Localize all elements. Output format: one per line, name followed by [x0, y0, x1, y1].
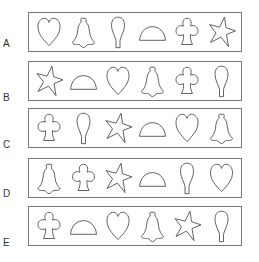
bell-icon: [211, 114, 233, 143]
heart-icon: [38, 18, 60, 45]
row-label: D: [3, 189, 10, 199]
semicircle-icon: [140, 173, 166, 187]
heart-icon: [211, 164, 233, 191]
star-icon: [106, 113, 132, 142]
club-icon: [176, 67, 198, 93]
bell-icon: [73, 18, 95, 47]
bell-icon: [38, 164, 60, 193]
club-icon: [73, 164, 95, 190]
option-box-a: [28, 12, 242, 52]
bell-icon: [142, 212, 164, 241]
semicircle-icon: [140, 27, 166, 41]
option-box-c: [28, 108, 242, 148]
star-icon: [106, 163, 132, 192]
star-icon: [37, 66, 63, 95]
balloon-icon: [77, 113, 90, 143]
bell-icon: [142, 67, 164, 96]
option-box-b: [28, 61, 242, 101]
row-label: A: [3, 39, 10, 49]
balloon-icon: [181, 163, 194, 193]
semicircle-icon: [140, 123, 166, 137]
row-label: E: [3, 238, 10, 248]
star-icon: [210, 17, 236, 46]
semicircle-icon: [71, 221, 97, 235]
row-label: B: [3, 93, 10, 103]
semicircle-icon: [71, 76, 97, 90]
option-box-d: [28, 158, 242, 198]
heart-icon: [107, 212, 129, 239]
balloon-icon: [112, 17, 125, 47]
option-box-e: [28, 206, 242, 246]
club-icon: [38, 114, 60, 140]
club-icon: [38, 212, 60, 238]
balloon-icon: [215, 66, 228, 96]
heart-icon: [107, 67, 129, 94]
star-icon: [175, 211, 201, 240]
balloon-icon: [215, 211, 228, 241]
club-icon: [176, 18, 198, 44]
heart-icon: [176, 114, 198, 141]
row-label: C: [3, 140, 10, 150]
